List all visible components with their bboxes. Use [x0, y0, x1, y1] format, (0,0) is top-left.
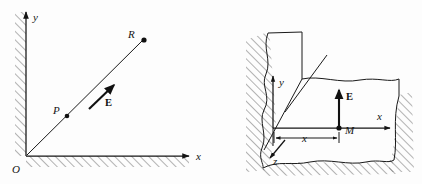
right-back-ground-edge: [302, 78, 399, 81]
left-vertical-wall-hatching: [15, 12, 26, 156]
left-ground-hatching: [26, 156, 189, 167]
right-panel: y x z x M E: [246, 32, 414, 176]
left-y-axis-label: y: [32, 11, 38, 23]
left-point-R-dot: [141, 37, 146, 42]
right-x-axis-label: x: [376, 110, 382, 122]
right-distance-x-label: x: [301, 132, 307, 144]
left-origin-label: O: [12, 163, 20, 175]
right-bottom-hatching: [262, 160, 396, 176]
right-field-E-label: E: [346, 91, 353, 102]
left-panel: y x O P R E: [12, 11, 201, 175]
right-wall-left-slant: [268, 32, 302, 33]
right-z-axis-label: z: [272, 155, 278, 167]
right-point-M-label: M: [344, 124, 355, 136]
left-point-P-dot: [65, 114, 70, 119]
physics-figure-svg: y x O P R E: [0, 0, 422, 184]
left-x-axis-label: x: [195, 150, 201, 162]
left-field-E-label: E: [105, 97, 112, 108]
right-y-axis-label: y: [278, 76, 284, 88]
right-wall-upper-diagonal: [285, 55, 327, 112]
left-point-P-label: P: [52, 104, 60, 116]
right-right-wall-hatching: [388, 92, 414, 172]
left-ray-OR: [27, 40, 143, 155]
figure-root: y x O P R E: [0, 0, 422, 184]
left-point-R-label: R: [127, 28, 135, 40]
